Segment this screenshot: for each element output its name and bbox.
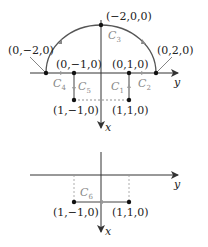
label-c1: C1: [111, 80, 124, 95]
label-q-m1-point: (1,−1,0): [53, 206, 99, 219]
label-y-axis: y: [173, 76, 181, 89]
point-q-p1: [127, 200, 131, 204]
point-b-m1: [72, 98, 76, 102]
arc-arrow-right-icon: [141, 39, 146, 44]
label-q-p1-point: (1,1,0): [112, 206, 149, 219]
label-c6: C6: [80, 186, 93, 201]
point-top: [99, 23, 103, 27]
label-x-axis: x: [105, 121, 112, 134]
pointer-left: [30, 57, 45, 72]
pointer-right: [157, 57, 172, 72]
point-q-m1: [72, 200, 76, 204]
label-p1-point: (0,1,0): [112, 58, 149, 71]
label-c2: C2: [138, 77, 151, 92]
point-p1: [127, 71, 131, 75]
label-right-point: (0,2,0): [157, 44, 194, 57]
label-top-point: (−2,0,0): [106, 10, 152, 23]
top-diagram: (−2,0,0) (0,−2,0) (0,2,0) (0,−1,0) (0,1,…: [8, 10, 194, 134]
diagram-canvas: (−2,0,0) (0,−2,0) (0,2,0) (0,−1,0) (0,1,…: [0, 0, 208, 247]
label-y-axis-bottom: y: [173, 178, 181, 191]
c1-arrow-icon: [127, 84, 131, 88]
point-right: [154, 71, 158, 75]
c2-arrow-icon: [141, 71, 145, 75]
bottom-diagram: C6 (1,−1,0) (1,1,0) y x: [30, 152, 181, 238]
label-m1-point: (0,−1,0): [56, 58, 102, 71]
c5-arrow-icon: [72, 87, 76, 91]
point-b-p1: [127, 98, 131, 102]
label-c4: C4: [53, 77, 66, 92]
label-b-p1-point: (1,1,0): [112, 104, 149, 117]
label-left-point: (0,−2,0): [8, 44, 54, 57]
label-c3: C3: [108, 29, 121, 44]
c4-arrow-icon: [60, 71, 64, 75]
point-left: [44, 71, 48, 75]
point-m1: [72, 71, 76, 75]
label-c5: C5: [78, 80, 91, 95]
label-x-axis-bottom: x: [105, 225, 112, 238]
label-b-m1-point: (1,−1,0): [53, 104, 99, 117]
